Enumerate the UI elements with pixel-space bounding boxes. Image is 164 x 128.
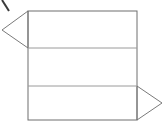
diagram-svg — [0, 0, 164, 128]
canvas-background — [0, 0, 164, 128]
diagram-canvas — [0, 0, 164, 128]
